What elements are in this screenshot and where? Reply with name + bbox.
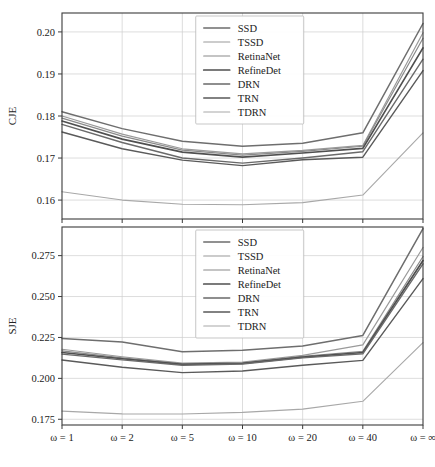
chart-panel-cje: 0.160.170.180.190.20CJESSDTSSDRetinaNetR… (6, 13, 423, 223)
dual-line-chart: 0.160.170.180.190.20CJESSDTSSDRetinaNetR… (0, 0, 435, 467)
y-tick-label: 0.18 (37, 111, 55, 122)
x-tick-label: ω = 40 (349, 432, 378, 443)
legend-label-refinedet: RefineDet (238, 65, 281, 76)
y-axis-title: CJE (6, 107, 18, 126)
legend-label-retinanet: RetinaNet (238, 51, 281, 62)
legend-label-trn: TRN (238, 307, 259, 318)
y-tick-label: 0.200 (31, 373, 55, 384)
legend-label-tssd: TSSD (238, 37, 264, 48)
y-axis-title: SJE (6, 317, 18, 334)
legend-label-drn: DRN (238, 293, 261, 304)
legend-label-refinedet: RefineDet (238, 279, 281, 290)
legend-label-trn: TRN (238, 93, 259, 104)
y-tick-label: 0.250 (31, 291, 55, 302)
x-tick-label: ω = 2 (110, 432, 133, 443)
chart-panel-sje: 0.1750.2000.2250.2500.275SJEω = 1ω = 2ω … (6, 227, 435, 443)
legend-label-tdrn: TDRN (238, 107, 267, 118)
legend-label-drn: DRN (238, 79, 261, 90)
x-tick-label: ω = 10 (228, 432, 257, 443)
legend-label-ssd: SSD (238, 237, 258, 248)
y-tick-label: 0.225 (31, 332, 55, 343)
x-tick-label: ω = 1 (50, 432, 73, 443)
legend-label-ssd: SSD (238, 23, 258, 34)
y-tick-label: 0.17 (37, 153, 55, 164)
legend-label-tssd: TSSD (238, 251, 264, 262)
y-tick-label: 0.275 (31, 250, 55, 261)
x-tick-label: ω = ∞ (410, 432, 435, 443)
y-tick-label: 0.20 (37, 27, 55, 38)
figure-container: 0.160.170.180.190.20CJESSDTSSDRetinaNetR… (0, 0, 435, 467)
legend-label-retinanet: RetinaNet (238, 265, 281, 276)
x-tick-label: ω = 5 (171, 432, 194, 443)
x-tick-label: ω = 20 (288, 432, 317, 443)
y-tick-label: 0.16 (37, 195, 55, 206)
legend-label-tdrn: TDRN (238, 321, 267, 332)
y-tick-label: 0.19 (37, 69, 55, 80)
y-tick-label: 0.175 (31, 414, 55, 425)
